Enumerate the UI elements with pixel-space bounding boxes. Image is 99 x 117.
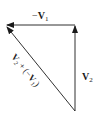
resultant-vector	[7, 27, 75, 111]
v2-label: V2	[82, 71, 93, 84]
vector-diagram: −V1 V2 V2+(−V1)	[0, 0, 99, 117]
resultant-arrow-icon	[7, 27, 75, 111]
resultant-label: V2+(−V1)	[9, 52, 42, 89]
neg-v1-label: −V1	[32, 10, 49, 23]
